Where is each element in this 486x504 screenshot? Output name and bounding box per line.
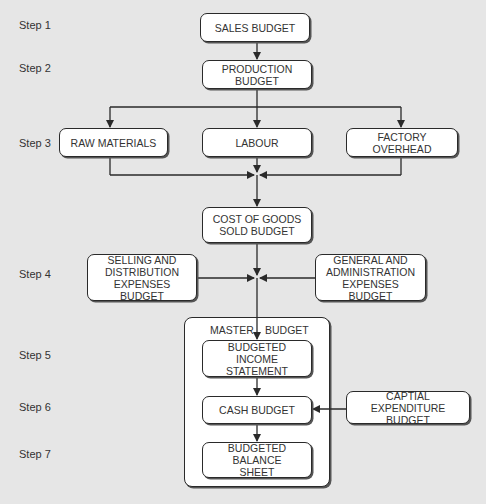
- cash-budget-node: CASH BUDGET: [202, 396, 312, 424]
- labour-node: LABOUR: [202, 128, 312, 157]
- budgeted-balance-sheet-node: BUDGETED BALANCE SHEET: [202, 442, 312, 478]
- budgeted-income-statement-node: BUDGETED INCOME STATEMENT: [202, 340, 312, 377]
- cogs-budget-node: COST OF GOODS SOLD BUDGET: [202, 207, 312, 243]
- selling-distribution-expenses-node: SELLING AND DISTRIBUTION EXPENSES BUDGET: [87, 254, 197, 301]
- capital-expenditure-budget-node: CAPTIAL EXPENDITURE BUDGET: [346, 391, 470, 424]
- production-budget-node: PRODUCTION BUDGET: [202, 60, 312, 89]
- raw-materials-node: RAW MATERIALS: [59, 128, 168, 157]
- factory-overhead-node: FACTORY OVERHEAD: [346, 128, 458, 157]
- budget-flow-diagram: Step 1 Step 2 Step 3 Step 4 Step 5 Step …: [0, 0, 486, 504]
- sales-budget-node: SALES BUDGET: [200, 13, 310, 42]
- general-administration-expenses-node: GENERAL AND ADMINISTRATION EXPENSES BUDG…: [315, 254, 426, 301]
